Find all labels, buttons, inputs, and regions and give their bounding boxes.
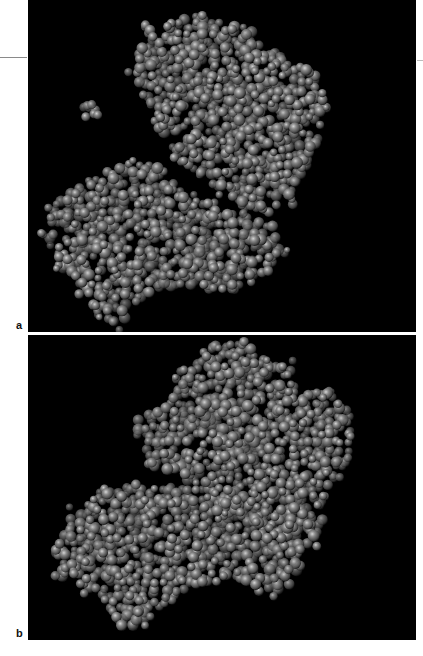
atom-sphere: [160, 247, 169, 256]
atom-sphere: [232, 65, 240, 73]
atom-sphere: [87, 532, 96, 541]
atom-sphere: [101, 529, 110, 538]
atom-sphere: [198, 428, 208, 438]
atom-sphere: [187, 563, 195, 571]
atom-sphere: [325, 407, 333, 415]
atom-sphere: [231, 253, 242, 264]
atom-sphere: [93, 110, 102, 119]
atom-sphere: [261, 508, 270, 517]
atom-sphere: [170, 45, 180, 55]
atom-sphere: [294, 140, 305, 151]
atom-sphere: [218, 284, 227, 293]
atom-sphere: [98, 208, 107, 217]
atom-sphere: [253, 377, 263, 387]
atom-sphere: [218, 476, 226, 484]
atom-sphere: [177, 424, 184, 431]
atom-sphere: [156, 113, 165, 122]
atom-sphere: [188, 552, 199, 563]
atom-sphere: [150, 598, 159, 607]
atom-sphere: [223, 560, 230, 567]
atom-sphere: [62, 195, 72, 205]
atom-sphere: [114, 584, 122, 592]
atom-sphere: [205, 128, 212, 135]
atom-sphere: [194, 246, 206, 258]
atom-sphere: [212, 167, 223, 178]
atom-sphere: [220, 42, 231, 53]
atom-sphere: [131, 546, 139, 554]
atom-sphere: [299, 419, 307, 427]
atom-sphere: [233, 568, 241, 576]
atom-sphere: [263, 138, 274, 149]
atom-sphere: [265, 384, 274, 393]
atom-sphere: [116, 491, 127, 502]
atom-sphere: [279, 439, 287, 447]
atom-sphere: [167, 499, 176, 508]
atom-sphere: [146, 612, 154, 620]
atom-sphere: [101, 596, 109, 604]
atom-sphere: [309, 492, 317, 500]
atom-sphere: [207, 77, 214, 84]
atom-sphere: [120, 277, 131, 288]
atom-sphere: [209, 263, 219, 273]
atom-sphere: [175, 55, 184, 64]
atom-sphere: [198, 43, 207, 52]
atom-sphere: [198, 11, 207, 20]
atom-sphere: [116, 548, 125, 557]
atom-sphere: [156, 206, 166, 216]
atom-sphere: [141, 424, 149, 432]
atom-sphere: [309, 455, 316, 462]
atom-sphere: [278, 487, 286, 495]
atom-sphere: [287, 547, 297, 557]
atom-sphere: [209, 284, 217, 292]
atom-sphere: [218, 407, 228, 417]
atom-sphere: [172, 587, 181, 596]
atom-sphere: [147, 251, 157, 261]
atom-sphere: [90, 496, 98, 504]
atom-sphere: [289, 122, 301, 134]
atom-sphere: [219, 572, 228, 581]
atom-sphere: [308, 530, 320, 542]
atom-sphere: [221, 121, 231, 131]
atom-sphere: [332, 420, 341, 429]
atom-sphere: [264, 443, 275, 454]
atom-sphere: [139, 91, 147, 99]
atom-sphere: [184, 117, 192, 125]
atom-sphere: [76, 255, 86, 265]
atom-sphere: [212, 436, 223, 447]
atom-sphere: [269, 172, 280, 183]
atom-sphere: [199, 280, 208, 289]
atom-sphere: [276, 161, 284, 169]
atom-sphere: [227, 24, 237, 34]
atom-sphere: [278, 362, 287, 371]
atom-sphere: [188, 495, 199, 506]
atom-sphere: [137, 169, 148, 180]
atom-sphere: [231, 406, 242, 417]
atom-sphere: [193, 479, 200, 486]
atom-sphere: [241, 29, 252, 40]
atom-sphere: [76, 526, 84, 534]
atom-sphere: [174, 29, 182, 37]
atom-sphere: [192, 540, 203, 551]
atom-sphere: [229, 228, 239, 238]
atom-sphere: [242, 532, 250, 540]
atom-sphere: [143, 552, 154, 563]
caption-bleed-through: [45, 644, 365, 652]
atom-sphere: [180, 366, 189, 375]
atom-sphere: [318, 89, 326, 97]
atom-sphere: [144, 437, 153, 446]
atom-sphere: [144, 565, 153, 574]
atom-sphere: [285, 388, 293, 396]
atom-sphere: [237, 272, 245, 280]
atom-sphere: [214, 247, 224, 257]
atom-sphere: [249, 235, 260, 246]
atom-sphere: [289, 419, 297, 427]
atom-sphere: [175, 240, 186, 251]
atom-sphere: [124, 68, 132, 76]
atom-sphere: [160, 402, 171, 413]
atom-sphere: [124, 209, 134, 219]
atom-sphere: [319, 394, 327, 402]
atom-sphere: [141, 578, 151, 588]
atom-sphere: [216, 220, 224, 228]
panel-label-b: b: [16, 628, 23, 639]
panel-a-molecule-image: [28, 0, 416, 332]
